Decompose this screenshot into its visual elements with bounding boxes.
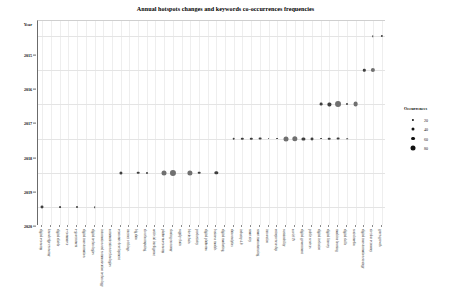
x-tick-label: communication technologies [108, 229, 112, 267]
x-tick-label: innovation [265, 229, 269, 243]
y-tick-mark [33, 55, 36, 56]
x-tick-label: artificial intelligence [152, 229, 156, 256]
data-point [41, 206, 44, 209]
legend-label: 40 [424, 127, 428, 132]
y-tick-label: 2020 [24, 224, 32, 229]
x-tick-mark [241, 225, 242, 227]
x-tick-label: digital technologies [91, 229, 95, 255]
data-point [258, 137, 261, 140]
data-point [292, 136, 297, 141]
x-tick-mark [41, 225, 42, 227]
data-point [241, 137, 243, 139]
data-point [337, 137, 340, 140]
x-tick-label: blockchain [187, 229, 191, 243]
x-tick-mark [181, 225, 182, 227]
legend-label: 80 [424, 146, 428, 151]
data-point [137, 172, 140, 175]
x-tick-label: circular economy [369, 229, 373, 252]
x-tick-mark [268, 225, 269, 227]
data-point [346, 103, 348, 105]
y-axis-title: Year [24, 22, 32, 27]
x-tick-mark [207, 225, 208, 227]
x-tick-mark [250, 225, 251, 227]
y-tick-label: 2015 [24, 53, 32, 58]
x-tick-label: platform economy [161, 229, 165, 253]
legend-dot [412, 118, 414, 120]
legend-row: 80 [404, 144, 450, 153]
data-point [162, 170, 167, 175]
x-tick-label: smart manufacturing [256, 229, 260, 256]
x-tick-label: machine learning [335, 229, 339, 252]
legend-dot [412, 128, 415, 131]
legend-title: Occurrences [404, 106, 427, 111]
x-tick-label: covid-19 [291, 229, 295, 241]
y-tick-mark [33, 226, 36, 227]
x-tick-label: digital marketing [221, 229, 225, 251]
x-tick-mark [294, 225, 295, 227]
x-tick-mark [102, 225, 103, 227]
x-axis: digital economyknowledge economydigital … [37, 225, 385, 305]
x-tick-label: e-commerce [65, 229, 69, 245]
x-tick-label: digital platforms [204, 229, 208, 251]
x-tick-label: sustainability [282, 229, 286, 246]
x-tick-mark [198, 225, 199, 227]
y-tick-mark [33, 157, 36, 158]
x-tick-label: industry 4.0 [239, 229, 243, 245]
plot-area [37, 20, 385, 225]
x-tick-mark [215, 225, 216, 227]
x-tick-mark [302, 225, 303, 227]
x-tick-mark [328, 225, 329, 227]
x-tick-mark [85, 225, 86, 227]
x-tick-mark [146, 225, 147, 227]
legend-row: 60 [404, 134, 450, 143]
legend: Occurrences 20406080 [404, 106, 450, 160]
data-point [215, 171, 218, 174]
legend-dot [411, 137, 415, 141]
data-point [319, 103, 322, 106]
data-point [328, 137, 331, 140]
data-point [328, 103, 331, 106]
x-tick-label: public services [308, 229, 312, 249]
x-tick-label: economic development [117, 229, 121, 260]
x-tick-label: productivity [195, 229, 199, 245]
x-tick-label: knowledge economy [47, 229, 51, 256]
data-point [283, 136, 288, 141]
y-tick-mark [33, 191, 36, 192]
y-tick-mark [33, 89, 36, 90]
data-point [188, 170, 193, 175]
data-point [371, 68, 375, 72]
y-tick-label: 2016 [24, 87, 32, 92]
x-tick-mark [320, 225, 321, 227]
data-point [170, 170, 176, 176]
x-tick-mark [163, 225, 164, 227]
x-tick-mark [381, 225, 382, 227]
data-point [302, 137, 305, 140]
data-point [250, 137, 252, 139]
data-point [59, 206, 61, 208]
legend-row: 40 [404, 125, 450, 134]
x-tick-label: digital government [300, 229, 304, 254]
legend-dot [411, 146, 416, 151]
x-tick-mark [372, 225, 373, 227]
x-tick-mark [94, 225, 95, 227]
x-tick-mark [50, 225, 51, 227]
x-tick-label: sharing economy [169, 229, 173, 252]
legend-label: 20 [424, 117, 428, 122]
x-tick-label: digital inclusion [317, 229, 321, 250]
y-tick-label: 2017 [24, 121, 32, 126]
data-point [119, 171, 122, 174]
x-tick-mark [76, 225, 77, 227]
x-tick-mark [276, 225, 277, 227]
x-tick-label: supply chain [178, 229, 182, 246]
x-tick-mark [111, 225, 112, 227]
data-point [268, 138, 270, 140]
data-point [146, 172, 148, 174]
x-tick-label: digital divide [56, 229, 60, 246]
data-point [311, 137, 314, 140]
x-tick-label: data analytics [230, 229, 234, 247]
x-tick-label: entrepreneurship [274, 229, 278, 251]
x-tick-mark [59, 225, 60, 227]
y-tick-label: 2018 [24, 155, 32, 160]
data-point [346, 138, 348, 140]
legend-label: 60 [424, 136, 428, 141]
